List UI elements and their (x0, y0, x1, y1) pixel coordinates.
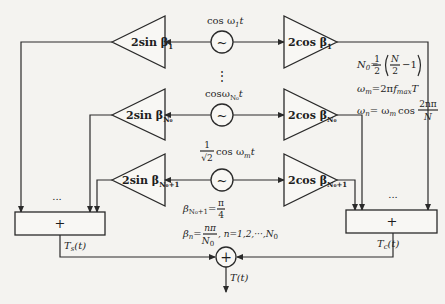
cos-amplifier-n0: 2cos βN₀ (284, 89, 337, 140)
oscillator-n0-plus-1: ~ 1 √2 cos ωmt (200, 140, 256, 191)
svg-text:ωm=2πfmaxT: ωm=2πfmaxT (357, 83, 420, 96)
svg-text:−1: −1 (402, 59, 417, 70)
svg-text:N: N (423, 112, 433, 122)
ts-label: Ts(t) (64, 240, 86, 253)
sin-amp-1-label: 2sin β (131, 36, 168, 49)
output-label: T(t) (230, 272, 249, 283)
svg-text:2sin β1: 2sin β1 (131, 36, 173, 51)
svg-text:2sin βN₀+1: 2sin βN₀+1 (122, 174, 180, 189)
svg-text:cos ω1t: cos ω1t (207, 15, 245, 29)
sine-wave-icon: ~ (217, 173, 228, 188)
svg-text:nπ: nπ (204, 223, 217, 233)
svg-text:cosωN₀t: cosωN₀t (205, 88, 244, 102)
cos-amp-1-label: 2cos β (288, 36, 327, 49)
oscillator-n0: ~ cosωN₀t (205, 88, 244, 126)
sin-amplifier-1: 2sin β1 (112, 16, 173, 68)
svg-text:2: 2 (392, 66, 398, 76)
svg-text:2: 2 (374, 66, 380, 76)
svg-text:2cos β1: 2cos β1 (288, 36, 332, 51)
svg-text:4: 4 (218, 210, 224, 220)
plus-icon: + (55, 216, 66, 231)
svg-text:2nπ: 2nπ (419, 99, 437, 109)
svg-text:cos ωmt: cos ωmt (216, 146, 256, 160)
plus-icon: + (220, 249, 232, 265)
svg-text:ωn= ωmcos: ωn= ωmcos (357, 105, 415, 118)
oscillator-n0-label: cosω (205, 88, 230, 99)
oscillator-n0p1-label: cos ω (216, 146, 244, 157)
sine-wave-icon: ~ (217, 108, 228, 123)
sin-amp-n0-label: 2sin β (126, 109, 163, 122)
oscillator-1: ~ cos ω1t (207, 15, 245, 53)
cos-amp-n0p1-label: 2cos β (288, 174, 327, 187)
signal-flow-diagram: 2sin β1 ~ cos ω1t 2cos β1 ⋮ 2sin βN₀ ~ c… (0, 0, 445, 304)
svg-text:√2: √2 (201, 153, 212, 163)
cos-amp-n0-label: 2cos β (288, 109, 327, 122)
svg-text:1: 1 (204, 140, 210, 150)
tc-label: Tc(t) (377, 238, 400, 251)
cos-amplifier-1: 2cos β1 (284, 16, 337, 68)
svg-text:1: 1 (374, 54, 380, 64)
right-ellipsis: ... (388, 189, 398, 200)
left-ellipsis: ... (52, 191, 62, 202)
svg-text:, n=1,2,···,N0: , n=1,2,···,N0 (218, 229, 278, 241)
equation-beta-n: βn= nπ N0 , n=1,2,···,N0 (182, 223, 278, 248)
sin-amplifier-n0: 2sin βN₀ (112, 89, 173, 140)
left-summer: + (15, 212, 105, 235)
plus-icon: + (387, 214, 398, 229)
svg-text:N: N (390, 54, 400, 64)
svg-text:N0: N0 (201, 236, 214, 248)
equation-omega-n: ωn= ωmcos 2nπ N (357, 99, 438, 122)
svg-text:π: π (218, 198, 224, 208)
equation-beta-n0-plus-1: βN₀+1= π 4 (182, 198, 225, 220)
equation-n0: N0= 1 2 N 2 −1 (356, 54, 421, 76)
sin-amp-n0p1-label: 2sin β (122, 174, 159, 187)
svg-text:βN₀+1=: βN₀+1= (182, 203, 216, 216)
vertical-ellipsis: ⋮ (216, 69, 228, 83)
svg-text:βn=: βn= (182, 228, 202, 241)
oscillator-1-label: cos ω (207, 15, 235, 26)
equation-omega-m: ωm=2πfmaxT (357, 83, 420, 96)
sine-wave-icon: ~ (217, 35, 228, 50)
svg-text:2cos βN₀+1: 2cos βN₀+1 (288, 174, 347, 189)
final-adder: + (216, 247, 236, 267)
right-summer: + (346, 210, 437, 233)
